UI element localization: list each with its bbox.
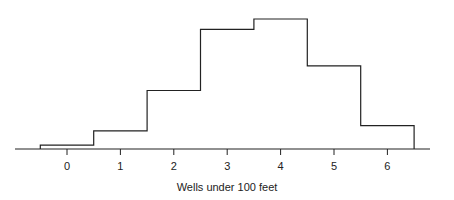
x-tick-label: 2 (171, 160, 177, 172)
x-tick-label: 6 (384, 160, 390, 172)
x-axis-label: Wells under 100 feet (177, 181, 278, 193)
x-tick-label: 0 (64, 160, 70, 172)
x-tick-label: 4 (278, 160, 284, 172)
x-tick-label: 3 (224, 160, 230, 172)
x-axis-tick-labels: 0123456 (64, 160, 391, 172)
histogram-chart: 0123456 Wells under 100 feet (0, 0, 454, 200)
histogram-step-outline (40, 19, 414, 149)
x-tick-label: 5 (331, 160, 337, 172)
chart-canvas: 0123456 Wells under 100 feet (0, 0, 454, 200)
x-tick-label: 1 (117, 160, 123, 172)
x-axis-ticks (67, 149, 387, 155)
